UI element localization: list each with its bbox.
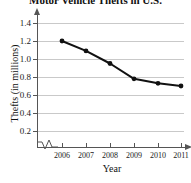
x-tick-2006 <box>62 143 63 148</box>
x-axis-title: Year <box>38 163 186 174</box>
y-tick-0.2 <box>33 131 38 132</box>
y-tick-0.4 <box>33 113 38 114</box>
line-chart: Motor Vehicle Thefts in U.S. 1.4 1.2 1.0… <box>0 0 191 183</box>
x-axis-line <box>38 147 186 148</box>
y-tick-0.8 <box>33 77 38 78</box>
x-tick-2008 <box>110 143 111 148</box>
y-axis-line <box>37 14 38 148</box>
x-tick-2010 <box>158 143 159 148</box>
y-tick-1.4 <box>33 23 38 24</box>
gridline-1.0 <box>38 59 184 60</box>
chart-title: Motor Vehicle Thefts in U.S. <box>0 0 191 6</box>
y-tick-0.6 <box>33 95 38 96</box>
y-axis-arrow-icon <box>34 8 40 15</box>
gridline-0.8 <box>38 77 184 78</box>
x-tick-label-2011: 2011 <box>166 151 191 160</box>
plot-area <box>38 14 184 147</box>
axis-break-zigzag-icon <box>38 138 58 150</box>
gridline-1.2 <box>38 41 184 42</box>
y-axis-title: Thefts (in millions) <box>9 19 20 149</box>
x-tick-2009 <box>134 143 135 148</box>
x-axis-arrow-icon <box>185 144 191 150</box>
gridline-0.4 <box>38 113 184 114</box>
y-tick-1.0 <box>33 59 38 60</box>
gridline-0.6 <box>38 95 184 96</box>
x-tick-2011 <box>181 143 182 148</box>
x-tick-2007 <box>86 143 87 148</box>
gridline-0.2 <box>38 131 184 132</box>
gridline-1.4 <box>38 23 184 24</box>
y-tick-1.2 <box>33 41 38 42</box>
